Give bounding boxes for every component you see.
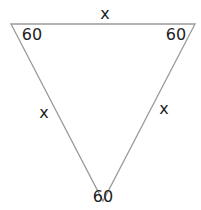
triangle-diagram: x x x 60 60 60 [0,0,201,210]
side-label-right: x [159,99,168,118]
side-label-top: x [100,4,109,23]
side-label-left: x [39,103,48,122]
angle-label-top-right: 60 [166,25,186,44]
angle-label-bottom: 60 [93,187,113,206]
angle-label-top-left: 60 [22,25,42,44]
